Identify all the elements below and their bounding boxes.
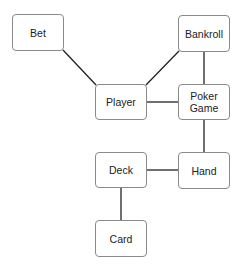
- node-bankroll[interactable]: Bankroll: [178, 15, 230, 52]
- node-poker-game[interactable]: Poker Game: [178, 84, 230, 120]
- node-label: Card: [110, 233, 133, 245]
- node-bet[interactable]: Bet: [12, 14, 64, 51]
- node-hand[interactable]: Hand: [178, 152, 230, 189]
- node-label: Bankroll: [185, 28, 223, 40]
- node-player[interactable]: Player: [95, 84, 147, 120]
- node-card[interactable]: Card: [95, 220, 147, 257]
- node-deck[interactable]: Deck: [95, 152, 147, 188]
- node-label: Player: [106, 96, 136, 108]
- node-label: Deck: [109, 164, 133, 176]
- node-label: Bet: [30, 27, 46, 39]
- edge-bankroll-player: [146, 51, 179, 85]
- edge-bet-player: [63, 50, 96, 85]
- node-label: Poker Game: [190, 90, 219, 114]
- node-label: Hand: [191, 165, 216, 177]
